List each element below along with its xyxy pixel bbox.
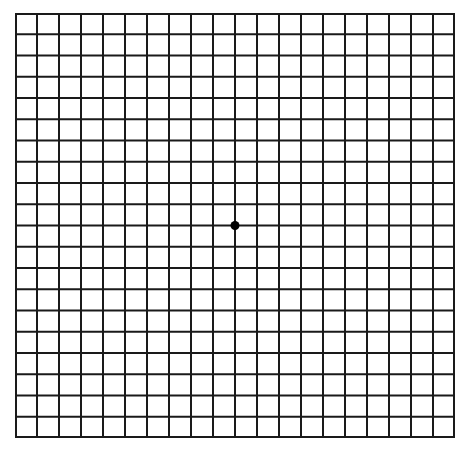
- grid-lines: [15, 13, 455, 438]
- center-fixation-dot: [231, 221, 240, 230]
- amsler-grid: [15, 13, 455, 438]
